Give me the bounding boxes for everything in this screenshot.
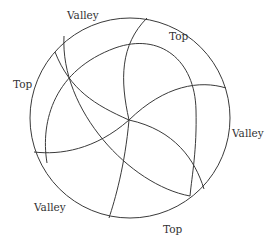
arm-2 bbox=[129, 85, 226, 120]
label-top-upper-right: Top bbox=[169, 31, 188, 42]
arm-6 bbox=[55, 52, 129, 120]
label-valley-bottom-left: Valley bbox=[34, 202, 66, 213]
arm-4 bbox=[109, 120, 129, 218]
label-top-left: Top bbox=[13, 79, 32, 90]
label-top-bottom: Top bbox=[163, 224, 182, 235]
outer-circle bbox=[30, 18, 230, 218]
arm-3 bbox=[129, 120, 204, 189]
arm-1 bbox=[124, 18, 147, 120]
arm-5 bbox=[34, 120, 129, 153]
label-valley-top-left: Valley bbox=[67, 10, 99, 21]
pinwheel-diagram: Valley Top Top Valley Valley Top bbox=[0, 0, 275, 242]
label-valley-right: Valley bbox=[232, 128, 264, 139]
inner-arc-bottom bbox=[64, 36, 190, 196]
